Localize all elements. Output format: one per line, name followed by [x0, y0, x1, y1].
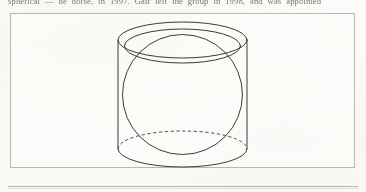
figure-frame — [10, 13, 355, 168]
page-bottom-rule — [8, 186, 358, 187]
running-text-fragment: spherical — he horse, in 1997. Gair left… — [8, 0, 358, 7]
page-bottom-rule-shadow — [8, 188, 358, 189]
running-text-line: spherical — he horse, in 1997. Gair left… — [8, 0, 358, 6]
